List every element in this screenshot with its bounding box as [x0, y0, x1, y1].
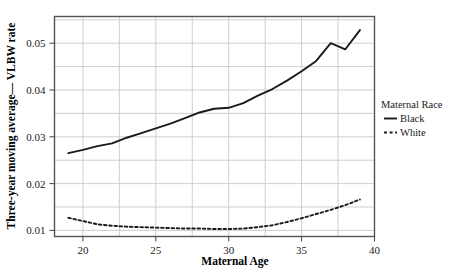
x-tick-label: 40: [369, 244, 381, 256]
legend-title: Maternal Race: [381, 99, 443, 110]
x-tick-label: 20: [77, 244, 89, 256]
legend-label-black: Black: [400, 113, 425, 124]
vlbw-rate-line-chart: 2025303540 0.010.020.030.040.05 Maternal…: [0, 0, 460, 276]
y-tick-label: 0.05: [26, 37, 46, 49]
legend-label-white: White: [400, 127, 426, 138]
chart-background: [0, 0, 460, 276]
chart-container: 2025303540 0.010.020.030.040.05 Maternal…: [0, 0, 460, 276]
x-axis-title: Maternal Age: [201, 255, 268, 268]
y-axis-title: Three-year moving average— VLBW rate: [5, 23, 18, 230]
y-tick-label: 0.03: [26, 131, 46, 143]
x-tick-label: 25: [150, 244, 162, 256]
x-tick-label: 30: [223, 244, 235, 256]
y-tick-label: 0.04: [26, 84, 46, 96]
y-tick-label: 0.02: [26, 178, 45, 190]
y-tick-label: 0.01: [26, 224, 45, 236]
x-tick-label: 35: [296, 244, 308, 256]
